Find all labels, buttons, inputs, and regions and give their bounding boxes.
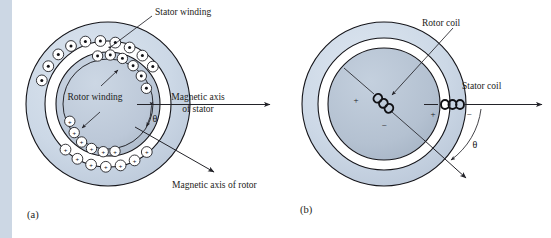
rotor-conductor-cross: +	[98, 147, 108, 157]
svg-text:+: +	[80, 138, 84, 145]
rotor-conductor-cross: +	[69, 127, 79, 137]
svg-text:+: +	[145, 148, 149, 155]
stator-conductor-cross: +	[60, 144, 71, 155]
stator-conductor-dot	[80, 36, 91, 47]
stator-winding-label: Stator winding	[155, 7, 211, 17]
rotor-conductor-dot	[92, 51, 102, 61]
stator-conductor-cross: +	[129, 155, 140, 166]
stator-conductor-cross: +	[115, 160, 126, 171]
rotor-conductor-dot	[128, 60, 138, 70]
svg-text:+: +	[101, 148, 105, 155]
rotor-coil-minus-sign: −	[381, 120, 386, 130]
svg-text:+: +	[133, 157, 137, 164]
figure-canvas: + + + + + + + + + + + + + Magnetic axis …	[0, 0, 551, 238]
rotor-outer-circle-b	[328, 48, 440, 160]
rotor-conductor-cross: +	[110, 146, 120, 156]
svg-text:+: +	[89, 161, 93, 168]
stator-conductor-dot	[110, 37, 121, 48]
stator-conductor-dot	[124, 42, 135, 53]
rotor-conductor-dot	[141, 83, 151, 93]
theta-label-b: θ	[473, 139, 478, 150]
svg-text:+: +	[72, 129, 76, 136]
stator-conductor-dot	[53, 49, 64, 60]
stator-conductor-dot	[36, 75, 47, 86]
panel-a-label: (a)	[27, 209, 39, 221]
stator-conductor-cross: +	[72, 153, 83, 164]
stator-conductor-cross: +	[100, 161, 111, 172]
panel-b-label: (b)	[300, 204, 313, 216]
svg-text:+: +	[76, 155, 80, 162]
magnetic-axis-rotor-label: Magnetic axis of rotor	[172, 180, 258, 190]
stator-coil-plus-sign: +	[430, 109, 435, 119]
stator-conductor-cross: +	[86, 159, 97, 170]
stator-conductor-dot	[95, 36, 106, 47]
rotor-winding-label-line1: Rotor winding	[67, 92, 122, 102]
theta-label-a: θ	[153, 113, 158, 124]
svg-text:+: +	[64, 146, 68, 153]
svg-text:+: +	[68, 118, 72, 125]
stator-coil-label: Stator coil	[462, 81, 502, 91]
figure-root: + + + + + + + + + + + + + Magnetic axis …	[0, 0, 551, 238]
rotor-coil-label: Rotor coil	[422, 18, 461, 28]
stator-conductor-dot	[137, 50, 148, 61]
panel-b: + − Rotor coil + − Stator coil θ (b)	[300, 18, 542, 216]
rotor-conductor-cross: +	[76, 137, 86, 147]
stator-conductor-dot	[147, 61, 158, 72]
rotor-conductor-cross: +	[86, 143, 96, 153]
rotor-conductor-cross: +	[65, 116, 75, 126]
stator-conductor-dot	[43, 61, 54, 72]
svg-text:+: +	[90, 145, 94, 152]
svg-text:+: +	[119, 162, 123, 169]
magnetic-axis-stator-label-line2: of stator	[182, 104, 214, 114]
stator-coil-minus-sign: −	[466, 109, 471, 119]
svg-text:+: +	[104, 163, 108, 170]
rotor-conductor-dot	[105, 50, 115, 60]
rotor-conductor-dot	[136, 71, 146, 81]
rotor-coil-plus-sign: +	[353, 95, 358, 105]
svg-text:+: +	[113, 148, 117, 155]
panel-a: + + + + + + + + + + + + + Magnetic axis …	[26, 7, 270, 221]
magnetic-axis-stator-label-line1: Magnetic axis	[171, 92, 225, 102]
stator-conductor-cross: +	[141, 147, 152, 158]
stator-conductor-dot	[66, 41, 77, 52]
rotor-conductor-dot	[117, 53, 127, 63]
